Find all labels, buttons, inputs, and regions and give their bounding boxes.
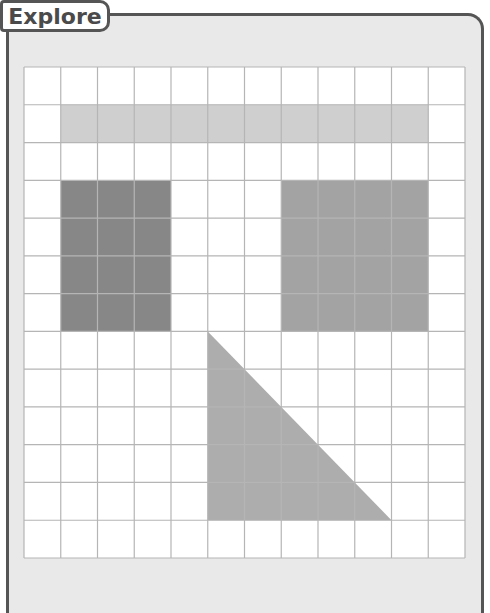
explore-label: Explore (0, 0, 110, 32)
